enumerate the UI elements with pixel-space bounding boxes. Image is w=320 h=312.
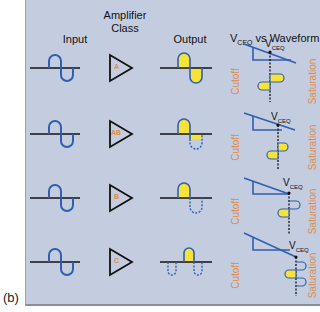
saturation-label-ab: Saturation	[307, 125, 318, 171]
input-wave-ab	[30, 121, 80, 147]
amp-class-label-a: A	[114, 63, 119, 70]
vceq-graph-a	[244, 44, 296, 102]
saturation-label-b: Saturation	[307, 189, 318, 235]
amp-class-label-b: B	[114, 193, 119, 200]
amp-class-label-ab: AB	[111, 129, 121, 136]
saturation-label-a: Saturation	[307, 59, 318, 105]
input-wave-c	[30, 249, 80, 275]
cutoff-label-c: Cutoff	[230, 262, 241, 289]
amp-class-label-c: C	[114, 257, 119, 264]
cutoff-label-b: Cutoff	[230, 198, 241, 225]
saturation-label-c: Saturation	[307, 253, 318, 299]
output-wave-c	[160, 248, 212, 275]
vceq-label-a: VCEQ	[265, 38, 285, 51]
output-wave-ab	[160, 119, 212, 149]
output-wave-a	[160, 53, 212, 83]
vceq-label-c: VCEQ	[289, 240, 309, 253]
cutoff-label-ab: Cutoff	[230, 134, 241, 161]
output-wave-b	[160, 183, 212, 213]
input-wave-a	[30, 55, 80, 81]
vceq-label-ab: VCEQ	[271, 111, 291, 124]
input-wave-b	[30, 185, 80, 211]
vceq-label-b: VCEQ	[283, 177, 303, 190]
cutoff-label-a: Cutoff	[230, 68, 241, 95]
